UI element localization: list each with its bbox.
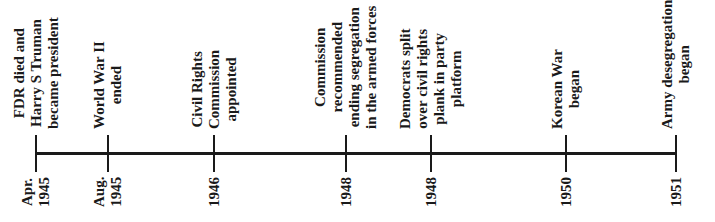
tick-mark <box>565 135 567 172</box>
event-label: Korean War began <box>549 49 583 129</box>
tick-mark <box>430 135 432 172</box>
event-label: Commission recommended ending segregatio… <box>312 6 380 129</box>
date-label: 1946 <box>206 177 223 207</box>
date-label: 1950 <box>558 177 575 207</box>
timeline: FDR died and Harry S Truman became presi… <box>0 0 715 222</box>
event-label: World War II ended <box>91 41 125 129</box>
tick-mark <box>35 135 37 172</box>
event-label: Army desegregation began <box>659 0 693 129</box>
tick-mark <box>107 135 109 172</box>
timeline-axis-line <box>36 152 677 155</box>
date-label: 1951 <box>668 177 685 207</box>
event-label: Democrats split over civil rights plank … <box>397 29 465 129</box>
tick-mark <box>345 135 347 172</box>
tick-mark <box>675 135 677 172</box>
date-label: 1948 <box>338 177 355 207</box>
date-label: 1948 <box>423 177 440 207</box>
date-label: Apr. 1945 <box>19 177 53 207</box>
event-label: Civil Rights Commission appointed <box>189 50 240 129</box>
date-label: Aug. 1945 <box>91 177 125 207</box>
tick-mark <box>213 135 215 172</box>
event-label: FDR died and Harry S Truman became presi… <box>11 17 62 129</box>
